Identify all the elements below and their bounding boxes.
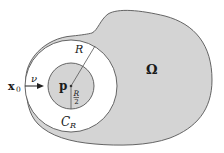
circle-label-subscript: R <box>69 121 76 130</box>
circle-label: C <box>61 115 70 129</box>
center-point-dot <box>70 85 73 88</box>
omega-label: Ω <box>146 62 158 77</box>
half-radius-denominator: 2 <box>74 98 78 106</box>
half-radius-numerator: R <box>73 89 80 98</box>
diagram-canvas: Ω R p R 2 x 0 ν C R <box>0 0 224 153</box>
normal-vector-label: ν <box>31 73 37 84</box>
boundary-point-label: x <box>8 80 15 93</box>
boundary-point-subscript: 0 <box>16 85 21 94</box>
radius-label: R <box>74 43 83 56</box>
center-point-label: p <box>59 79 67 93</box>
